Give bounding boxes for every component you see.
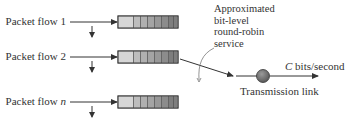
flow-n-label: Packet flow n — [0, 96, 66, 107]
annotation-leader — [199, 48, 214, 80]
flow-2-label: Packet flow 2 — [0, 51, 66, 62]
flow-label-id: n — [61, 95, 67, 107]
flow-label-prefix: Packet flow — [6, 15, 61, 27]
flow-n-group — [70, 96, 178, 117]
rate-unit: bits/second — [292, 60, 344, 72]
scheduler-arrow — [180, 59, 233, 76]
flow-1-group — [70, 16, 178, 37]
flow-1-label: Packet flow 1 — [0, 16, 66, 27]
annotation-line-4: service — [214, 38, 275, 50]
transmission-link-label: Transmission link — [240, 86, 319, 97]
scheduler-annotation: Approximated bit-level round-robin servi… — [214, 3, 275, 49]
flow-2-group — [70, 51, 178, 72]
annotation-line-2: bit-level — [214, 15, 275, 27]
flow-n-queue — [118, 96, 178, 108]
flow-label-prefix: Packet flow — [6, 95, 61, 107]
output-rate-label: C bits/second — [285, 61, 345, 72]
flow-2-queue — [118, 51, 178, 63]
annotation-line-3: round-robin — [214, 26, 275, 38]
flow-label-id: 2 — [61, 50, 67, 62]
flow-label-id: 1 — [61, 15, 67, 27]
link-node-icon — [257, 70, 270, 83]
annotation-line-1: Approximated — [214, 3, 275, 15]
fair-queuing-diagram: Packet flow 1 Packet flow 2 Packet flow … — [0, 0, 349, 137]
flow-label-prefix: Packet flow — [6, 50, 61, 62]
flow-1-queue — [118, 16, 178, 28]
